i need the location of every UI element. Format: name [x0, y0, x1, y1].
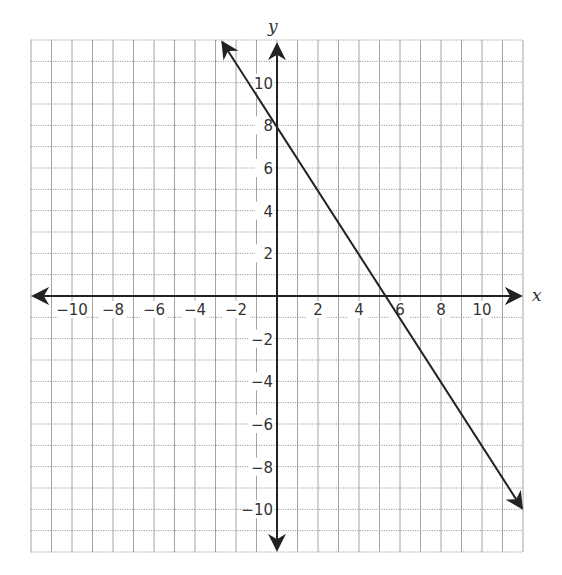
y-tick-label: 4	[263, 203, 273, 221]
coordinate-plane: −10−8−6−4−2246810108642−2−4−6−8−10 y x	[0, 0, 562, 575]
x-tick-label: 6	[395, 301, 405, 319]
x-tick-label: −4	[184, 301, 206, 319]
x-tick-label: −6	[143, 301, 165, 319]
x-tick-label: 8	[436, 301, 446, 319]
y-tick-label: −8	[251, 459, 273, 477]
x-tick-label: −10	[56, 301, 88, 319]
x-tick-label: 10	[472, 301, 491, 319]
axes	[33, 44, 521, 550]
y-axis-label: y	[267, 16, 278, 36]
y-tick-label: −6	[251, 416, 273, 434]
x-tick-label: 2	[313, 301, 323, 319]
y-tick-label: −2	[251, 331, 273, 349]
x-tick-label: −8	[102, 301, 124, 319]
x-axis-label: x	[532, 285, 542, 305]
y-tick-label: −4	[251, 373, 273, 391]
y-tick-label: 6	[263, 160, 273, 178]
y-tick-label: 2	[263, 245, 273, 263]
y-tick-label: −10	[241, 501, 273, 519]
x-tick-label: 4	[354, 301, 364, 319]
line-series	[222, 42, 522, 508]
y-tick-label: 10	[254, 75, 273, 93]
x-tick-label: −2	[225, 301, 247, 319]
plotted-line	[222, 42, 522, 508]
